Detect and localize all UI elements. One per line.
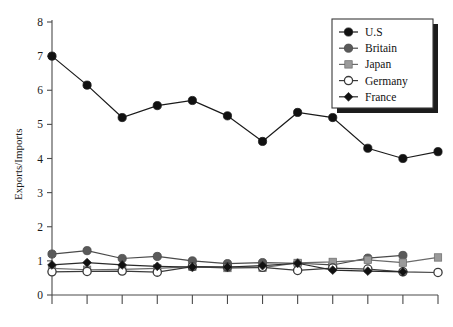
- chart-legend: U.SBritainJapanGermanyFrance: [332, 19, 438, 113]
- data-point-marker: [48, 52, 56, 60]
- data-point-marker: [434, 254, 441, 261]
- x-axis: [52, 295, 438, 304]
- data-point-marker: [329, 113, 337, 121]
- y-tick-label: 7: [37, 50, 43, 62]
- data-point-marker: [434, 268, 442, 276]
- legend-label: Britain: [365, 42, 397, 54]
- data-point-marker: [223, 112, 231, 120]
- data-point-marker: [83, 267, 91, 275]
- data-point-marker: [48, 250, 56, 258]
- data-point-marker: [188, 96, 196, 104]
- line-chart: 012345678 Exports/Imports U.SBritainJapa…: [0, 0, 453, 327]
- data-point-marker: [364, 144, 372, 152]
- data-point-marker: [399, 154, 407, 162]
- data-point-marker: [118, 113, 126, 121]
- legend-label: Japan: [365, 58, 391, 71]
- y-tick-label: 5: [37, 118, 43, 130]
- y-tick-label: 2: [37, 221, 43, 233]
- y-tick-label: 6: [37, 84, 43, 96]
- y-tick-label: 3: [37, 187, 43, 199]
- data-point-marker: [153, 102, 161, 110]
- data-point-marker: [399, 259, 406, 266]
- data-point-marker: [434, 148, 442, 156]
- data-point-marker: [345, 61, 352, 68]
- data-point-marker: [399, 251, 407, 259]
- data-point-marker: [294, 108, 302, 116]
- y-axis-title: Exports/Imports: [12, 129, 24, 201]
- data-point-marker: [344, 77, 352, 85]
- data-point-marker: [83, 81, 91, 89]
- data-point-marker: [258, 137, 266, 145]
- y-tick-label: 1: [37, 255, 43, 267]
- data-point-marker: [83, 247, 91, 255]
- data-point-marker: [344, 44, 352, 52]
- data-point-marker: [153, 252, 161, 260]
- legend-label: France: [365, 91, 396, 103]
- legend-label: U.S: [365, 26, 383, 38]
- legend-item-britain[interactable]: Britain: [339, 42, 397, 54]
- data-point-marker: [364, 256, 371, 263]
- data-point-marker: [344, 28, 352, 36]
- y-tick-label: 4: [37, 153, 43, 165]
- legend-label: Germany: [365, 75, 408, 88]
- y-tick-label: 0: [37, 289, 43, 301]
- data-point-marker: [83, 258, 92, 267]
- chart-container: 012345678 Exports/Imports U.SBritainJapa…: [0, 0, 453, 327]
- y-tick-label: 8: [37, 16, 43, 28]
